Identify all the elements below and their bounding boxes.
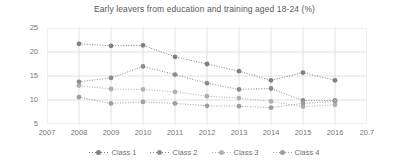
legend-label: Class 2 — [172, 148, 197, 157]
data-point — [205, 62, 210, 67]
data-point — [109, 101, 114, 106]
data-point — [109, 76, 114, 81]
legend-item-1[interactable]: Class 1 — [89, 148, 136, 157]
data-point — [173, 54, 178, 59]
data-point — [237, 96, 242, 101]
legend-label: Class 1 — [111, 148, 136, 157]
data-point — [237, 87, 242, 92]
data-point — [269, 78, 274, 83]
legend-item-4[interactable]: Class 4 — [273, 148, 320, 157]
legend-marker-icon — [212, 150, 232, 155]
data-point — [141, 100, 146, 105]
data-point — [269, 86, 274, 91]
data-point — [141, 64, 146, 69]
data-point — [269, 105, 274, 110]
legend-marker-icon — [273, 150, 293, 155]
data-point — [301, 70, 306, 75]
data-point — [77, 83, 82, 88]
plot-area — [47, 28, 367, 124]
y-tick-label: 25 — [8, 23, 38, 32]
x-tick-label: 20.7 — [347, 128, 387, 137]
y-axis: 252015105 — [0, 0, 47, 165]
series-lines — [47, 28, 367, 124]
legend-marker-icon — [89, 150, 109, 155]
legend-item-3[interactable]: Class 3 — [212, 148, 259, 157]
data-point — [269, 99, 274, 104]
chart-container: Early leavers from education and trainin… — [0, 0, 409, 165]
x-axis: 2007200820092010201120122013201420152016… — [0, 128, 409, 140]
legend-marker-icon — [150, 150, 170, 155]
data-point — [109, 43, 114, 48]
data-point — [237, 69, 242, 74]
y-tick-label: 20 — [8, 47, 38, 56]
y-tick-label: 5 — [8, 119, 38, 128]
y-tick-label: 15 — [8, 71, 38, 80]
data-point — [333, 99, 338, 104]
data-point — [301, 101, 306, 106]
data-point — [77, 41, 82, 46]
y-tick-label: 10 — [8, 95, 38, 104]
data-point — [141, 87, 146, 92]
data-point — [173, 89, 178, 94]
data-point — [109, 87, 114, 92]
data-point — [141, 43, 146, 48]
chart-title: Early leavers from education and trainin… — [0, 4, 409, 14]
legend-label: Class 3 — [234, 148, 259, 157]
data-point — [205, 81, 210, 86]
chart-legend: Class 1Class 2Class 3Class 4 — [0, 145, 409, 159]
data-point — [205, 103, 210, 108]
legend-item-2[interactable]: Class 2 — [150, 148, 197, 157]
legend-label: Class 4 — [295, 148, 320, 157]
data-point — [205, 94, 210, 99]
data-point — [173, 101, 178, 106]
data-point — [333, 78, 338, 83]
data-point — [77, 95, 82, 100]
data-point — [237, 104, 242, 109]
data-point — [173, 72, 178, 77]
